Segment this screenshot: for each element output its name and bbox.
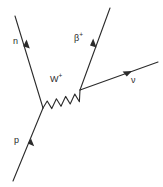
positron-line-segment: [80, 8, 110, 90]
feynman-diagram-figure: n β+ ν W+ p: [0, 0, 163, 187]
label-proton: p: [14, 136, 19, 145]
positron-arrowhead-icon: [90, 39, 97, 48]
label-positron: β+: [74, 34, 83, 43]
w-boson-wave-path: [43, 90, 80, 109]
label-neutron: n: [13, 37, 18, 46]
label-w-boson-superscript: +: [59, 72, 63, 79]
neutron-line-segment: [15, 16, 43, 108]
positron-line: [80, 8, 110, 90]
neutrino-line-segment: [80, 62, 158, 90]
feynman-diagram-canvas: [0, 0, 163, 187]
label-positron-superscript: +: [79, 31, 83, 38]
label-neutrino: ν: [131, 76, 136, 85]
neutron-line: [15, 16, 43, 108]
label-w-boson: W+: [50, 75, 62, 84]
w-boson-line: [43, 90, 80, 109]
proton-arrowhead-icon: [28, 139, 34, 147]
label-w-boson-base: W: [50, 74, 59, 84]
neutrino-line: [80, 62, 158, 90]
